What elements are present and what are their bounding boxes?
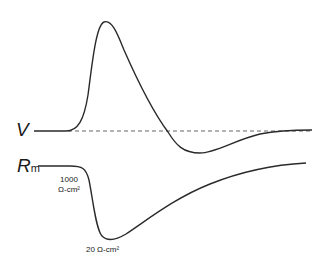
action-potential-diagram bbox=[0, 0, 324, 262]
membrane-voltage-trace bbox=[34, 22, 312, 153]
peak-resistance-annotation: 20 Ω-cm² bbox=[86, 245, 119, 255]
rest-resistance-value: 1000 bbox=[52, 175, 86, 185]
rest-resistance-unit: Ω-cm² bbox=[52, 185, 86, 195]
voltage-label: V bbox=[16, 119, 29, 141]
rest-resistance-annotation: 1000 Ω-cm² bbox=[52, 175, 86, 195]
resistance-label-main: R bbox=[17, 155, 31, 176]
resistance-label: Rm bbox=[17, 155, 40, 177]
resistance-label-subscript: m bbox=[31, 162, 40, 174]
